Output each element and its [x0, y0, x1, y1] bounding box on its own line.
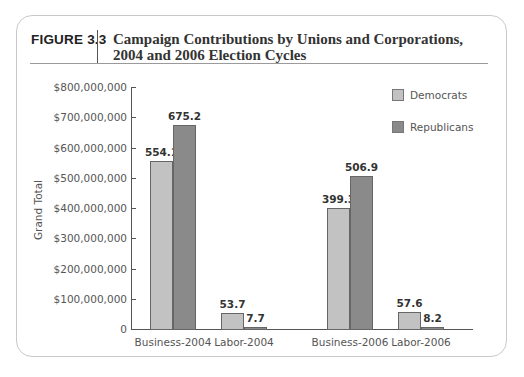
figure-frame [16, 15, 507, 357]
header-rule [30, 63, 488, 64]
y-tick-label: $500,000,000 [54, 172, 127, 184]
x-category-label: Labor-2006 [391, 336, 451, 348]
y-tick [131, 329, 136, 330]
figure-label: FIGURE 3.3 [31, 32, 107, 47]
y-tick-label: 0 [120, 323, 127, 335]
y-tick-label: $700,000,000 [54, 111, 127, 123]
legend-label-republicans: Republicans [410, 121, 473, 133]
bar-value-label: 57.6 [397, 297, 423, 309]
x-category-label: Labor-2004 [214, 336, 274, 348]
y-tick [131, 117, 136, 118]
democrats-swatch-icon [392, 89, 404, 101]
bar-democrats-labor-2004 [221, 313, 244, 330]
bar-republicans-business-2006 [350, 176, 373, 330]
y-tick [131, 87, 136, 88]
bar-republicans-labor-2004 [244, 327, 267, 330]
y-tick-label: $200,000,000 [54, 263, 127, 275]
bar-democrats-labor-2006 [398, 312, 421, 330]
legend-item-democrats: Democrats [392, 89, 467, 101]
bar-republicans-labor-2006 [421, 327, 444, 330]
y-tick-label: $800,000,000 [54, 81, 127, 93]
header-divider [97, 30, 98, 64]
y-tick [131, 178, 136, 179]
y-tick-label: $400,000,000 [54, 202, 127, 214]
bar-value-label: 8.2 [423, 312, 442, 324]
bar-democrats-business-2004 [150, 161, 173, 330]
bar-democrats-business-2006 [327, 208, 350, 330]
y-tick [131, 299, 136, 300]
legend-label-democrats: Democrats [410, 89, 467, 101]
x-category-label: Business-2006 [312, 336, 389, 348]
bar-republicans-business-2004 [173, 125, 196, 330]
bar-value-label: 675.2 [168, 110, 201, 122]
bar-value-label: 53.7 [220, 298, 246, 310]
bar-value-label: 7.7 [246, 312, 265, 324]
y-tick [131, 238, 136, 239]
y-tick [131, 148, 136, 149]
republicans-swatch-icon [392, 121, 404, 133]
legend-item-republicans: Republicans [392, 121, 473, 133]
x-category-label: Business-2004 [135, 336, 212, 348]
y-tick-label: $300,000,000 [54, 232, 127, 244]
figure-title: Campaign Contributions by Unions and Cor… [113, 31, 493, 63]
y-tick [131, 208, 136, 209]
bar-value-label: 506.9 [345, 161, 378, 173]
y-axis-title: Grand Total [32, 180, 44, 240]
y-tick-label: $600,000,000 [54, 142, 127, 154]
y-tick [131, 269, 136, 270]
y-tick-label: $100,000,000 [54, 293, 127, 305]
